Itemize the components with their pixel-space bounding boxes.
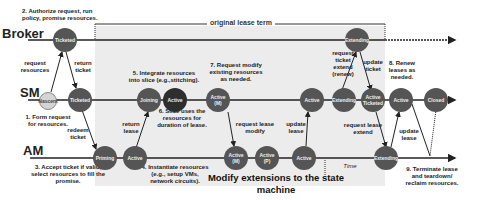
am-active-node: Active <box>123 146 147 170</box>
broker-ticketed-node: Ticketed <box>53 28 77 52</box>
request-lease-extend-label: request lease extend <box>340 122 386 136</box>
return-ticket-label: return ticket <box>70 60 96 74</box>
am-active-m-node: Active (M) <box>224 146 248 170</box>
request-lease-modify-label: request lease modify <box>232 121 278 135</box>
step-6-label: 6. Slice uses the resources for duration… <box>154 108 210 129</box>
request-resources-label: request resources <box>18 60 52 74</box>
am-active-p-node: Active (P) <box>255 146 279 170</box>
update-ticket-label: update ticket <box>360 59 386 73</box>
step-2-label: 2. Authorize request, run policy, promis… <box>22 8 112 22</box>
sm-ticketed-node: Ticketed <box>68 88 92 112</box>
am-extending-node: Extending <box>374 146 398 170</box>
sm-active-node-2: Active <box>300 88 324 112</box>
update-lease-label-1: update lease <box>284 121 308 135</box>
sm-closed-node: Closed <box>424 88 448 112</box>
sm-active-m-node: Active (M) <box>206 88 230 112</box>
diagram-caption: Modify extensions to the state machine <box>196 172 356 196</box>
step-8-label: 8. Renew leases as needed. <box>384 60 420 81</box>
broker-extending-node: Extending <box>345 28 369 52</box>
sm-active-ticketed-node: Active Ticketed <box>361 88 385 112</box>
step-5-label: 5. Integrate resources into slice (e.g.,… <box>126 70 202 84</box>
am-active-node-2: Active <box>292 146 316 170</box>
sm-joining-node: Joining <box>137 88 161 112</box>
sm-nascent-node: Nascent <box>39 92 57 110</box>
time-label: Time <box>340 163 360 170</box>
step-9-label: 9. Terminate lease and teardown/ reclaim… <box>400 166 464 187</box>
step-1-label: 1. Form request for resources. <box>18 114 78 128</box>
broker-label: Broker <box>2 26 44 41</box>
return-lease-label: return lease <box>118 121 144 135</box>
step-3-label: 3. Accept ticket if valid, select resour… <box>28 164 108 185</box>
step-7-label: 7. Request modify existing resources as … <box>206 62 266 83</box>
am-priming-node: Priming <box>93 146 117 170</box>
update-lease-label-2: update lease <box>396 128 422 142</box>
sm-label: SM <box>20 85 40 100</box>
redeem-ticket-label: redeem ticket <box>64 127 92 141</box>
original-lease-term-label: original lease term <box>207 19 275 26</box>
sm-active-node: Active <box>163 88 187 112</box>
request-ticket-extend-label: request ticket extend (renew) <box>330 50 356 78</box>
sm-extending-node: Extending <box>332 88 356 112</box>
sm-active-node-3: Active <box>389 88 413 112</box>
am-label: AM <box>23 143 43 158</box>
